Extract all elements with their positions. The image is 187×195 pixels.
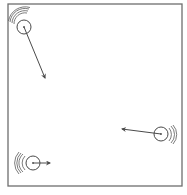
- ball-top-left: [9, 7, 46, 78]
- ball-bottom-left: [15, 152, 50, 174]
- motion-lines-icon: [169, 125, 177, 144]
- ball-right: [122, 125, 177, 144]
- motion-lines-icon: [15, 152, 25, 174]
- velocity-arrow: [24, 27, 45, 78]
- physics-diagram: [0, 0, 187, 195]
